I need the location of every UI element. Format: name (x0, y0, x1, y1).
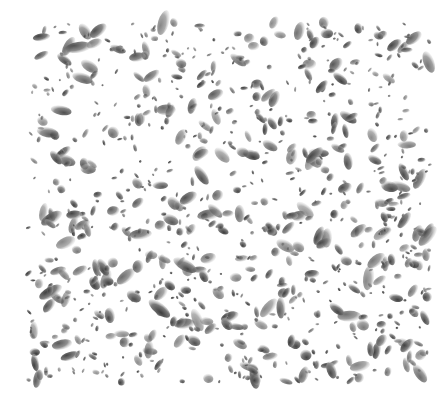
blob (138, 248, 141, 252)
blob (329, 192, 332, 195)
blob (154, 105, 158, 113)
blob (153, 181, 168, 189)
speckle-texture (0, 0, 445, 396)
blob (400, 130, 408, 142)
blob (326, 59, 329, 62)
blob (400, 199, 403, 204)
blob (320, 29, 333, 39)
